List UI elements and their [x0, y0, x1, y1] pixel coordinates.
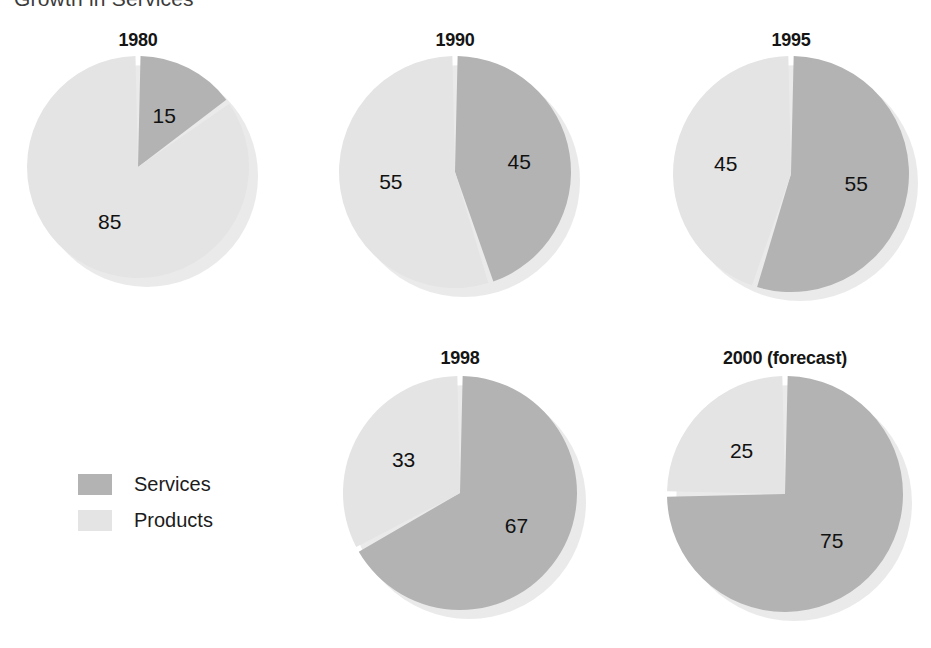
pie-slice-value-services: 67 [505, 514, 528, 538]
pie-chart: 7525 [667, 376, 903, 612]
pie-slice-value-products: 33 [392, 448, 415, 472]
pie-chart: 1585 [27, 56, 249, 278]
pie-chart: 6733 [343, 376, 577, 610]
pie-panel-title: 1980 [18, 30, 258, 51]
pie-panel-title: 2000 (forecast) [660, 348, 910, 369]
pie-slice-products[interactable] [667, 376, 785, 494]
legend-label-services: Services [134, 473, 211, 496]
legend: Services Products [78, 466, 213, 538]
pie-slice-value-products: 85 [98, 210, 121, 234]
legend-label-products: Products [134, 509, 213, 532]
legend-swatch-services [78, 474, 112, 495]
pie-slice-value-services: 75 [820, 529, 843, 553]
pie-panel-title: 1995 [672, 30, 910, 51]
pie-slice-value-services: 15 [153, 104, 176, 128]
pie-chart: 4555 [339, 56, 571, 288]
pie-panel-title: 1990 [335, 30, 575, 51]
pie-slice-value-products: 25 [730, 439, 753, 463]
legend-item-products[interactable]: Products [78, 502, 213, 538]
pie-chart: 5545 [673, 56, 909, 292]
pie-panel-title: 1998 [343, 348, 577, 369]
pie-slice-value-services: 55 [845, 172, 868, 196]
pie-slice-value-services: 45 [507, 150, 530, 174]
pie-slice-value-products: 45 [714, 152, 737, 176]
page-title: Growth in Services [14, 0, 194, 11]
pie-slice-value-products: 55 [379, 170, 402, 194]
legend-swatch-products [78, 510, 112, 531]
legend-item-services[interactable]: Services [78, 466, 213, 502]
